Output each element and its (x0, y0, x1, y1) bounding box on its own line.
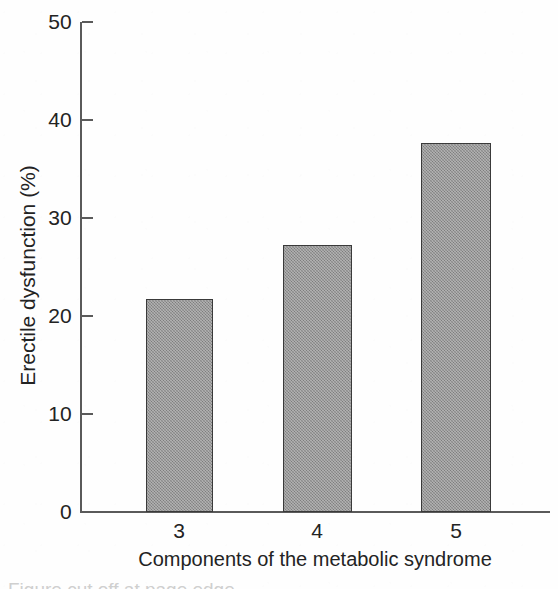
bar-category-5 (421, 143, 491, 512)
y-tick-label-50: 50 (28, 11, 72, 32)
y-tick-label-0: 0 (28, 501, 72, 522)
figure-canvas: 50 40 30 20 10 0 Erectile dysfunction (%… (0, 0, 558, 589)
y-tick-mark-40 (82, 119, 93, 121)
y-axis-line (80, 22, 82, 513)
bar-category-3 (146, 299, 213, 512)
y-tick-mark-20 (82, 315, 93, 317)
bar-category-4 (283, 245, 352, 512)
y-tick-label-50-wrap: 50 (22, 11, 72, 32)
y-tick-mark-10 (82, 413, 93, 415)
bar-chart-plot: 50 40 30 20 10 0 Erectile dysfunction (%… (0, 0, 558, 589)
y-tick-mark-30 (82, 217, 93, 219)
y-tick-label-0-wrap: 0 (22, 501, 72, 522)
cut-off-caption: Figure cut off at page edge (8, 579, 550, 589)
x-axis-title: Components of the metabolic syndrome (80, 548, 550, 570)
y-axis-title: Erectile dysfunction (%) (17, 106, 38, 446)
y-tick-mark-50 (82, 21, 93, 23)
x-tick-label-5: 5 (426, 519, 486, 543)
x-tick-label-3: 3 (149, 519, 209, 543)
x-tick-label-4: 4 (287, 519, 347, 543)
